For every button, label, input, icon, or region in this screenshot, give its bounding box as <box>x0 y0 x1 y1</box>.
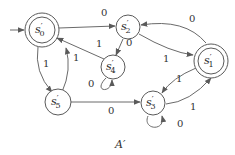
svg-text:1: 1 <box>176 73 182 84</box>
edge-s1-s2: 0 <box>141 13 206 43</box>
svg-text:0: 0 <box>189 13 195 24</box>
edge-s0-s2: 0 <box>59 7 115 28</box>
svg-text:1: 1 <box>43 58 49 69</box>
svg-text:1: 1 <box>190 101 196 112</box>
edge-s3-self: 0 <box>147 116 183 129</box>
node-s5: s′5 <box>45 89 71 115</box>
edge-s4-s0: 1 <box>57 38 104 59</box>
edge-s1-s3: 1 <box>162 68 196 93</box>
node-s4: s′4 <box>101 55 125 79</box>
svg-text:1: 1 <box>163 53 169 64</box>
state-diagram: 0 1 0 1 0 1 1 0 0 1 1 0 <box>0 0 235 155</box>
edge-s5-s3: 0 <box>71 102 140 116</box>
svg-text:0: 0 <box>101 7 107 18</box>
svg-text:0: 0 <box>177 118 183 129</box>
diagram-canvas: 0 1 0 1 0 1 1 0 0 1 1 0 <box>0 0 235 155</box>
edge-s2-s1: 1 <box>139 34 193 64</box>
svg-text:0: 0 <box>88 78 94 89</box>
svg-text:0: 0 <box>108 105 114 116</box>
node-s0: s′0 <box>25 13 59 47</box>
edge-s2-s4: 0 <box>116 37 132 55</box>
edge-s5-s0: 1 <box>62 48 79 92</box>
svg-text:1: 1 <box>96 38 102 49</box>
edge-s3-s1: 1 <box>166 78 211 112</box>
svg-text:1: 1 <box>73 52 79 63</box>
diagram-caption: A′ <box>114 138 126 151</box>
edge-s4-self: 0 <box>88 78 112 90</box>
node-s1: s′1 <box>194 44 228 78</box>
edge-s0-s5: 1 <box>37 47 52 92</box>
node-s2: s′2 <box>116 15 140 39</box>
node-s3: s′3 <box>141 91 165 115</box>
